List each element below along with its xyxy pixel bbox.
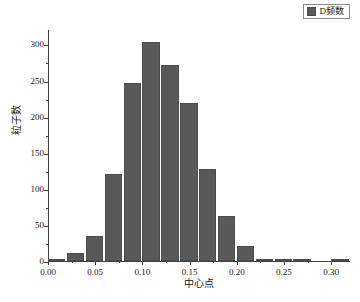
x-axis-tick-label: 0.05	[87, 267, 103, 277]
x-axis-tick	[48, 261, 49, 265]
y-axis-tick-label: 50	[4, 221, 44, 230]
y-axis-tick	[44, 226, 48, 227]
y-axis-tick	[44, 118, 48, 119]
x-axis-line	[48, 261, 350, 262]
y-axis-tick	[44, 82, 48, 83]
bar-series-d-frequency	[48, 30, 350, 261]
x-axis-minor-tick	[166, 261, 167, 263]
y-axis-title: 粒子数	[11, 105, 23, 135]
x-axis-minor-tick	[213, 261, 214, 263]
bar	[331, 259, 348, 261]
y-axis-tick-label: 250	[4, 77, 44, 86]
y-axis-tick	[44, 45, 48, 46]
y-axis-tick-label: 100	[4, 185, 44, 194]
chart-legend: D频数	[303, 4, 351, 19]
bar	[218, 216, 235, 261]
bar	[67, 253, 84, 261]
x-axis-tick	[142, 261, 143, 265]
x-axis-tick	[237, 261, 238, 265]
y-axis-tick-label: 200	[4, 113, 44, 122]
y-axis-tick	[44, 190, 48, 191]
y-axis-tick	[44, 154, 48, 155]
x-axis-tick	[95, 261, 96, 265]
y-axis-tick-label: 150	[4, 149, 44, 158]
plot-area: 050100150200250300 0.000.050.100.150.200…	[48, 30, 350, 262]
legend-swatch-d-frequency	[307, 7, 316, 16]
y-axis-minor-tick	[46, 172, 48, 173]
y-axis-minor-tick	[46, 244, 48, 245]
x-axis-tick-label: 0.20	[229, 267, 245, 277]
y-axis-minor-tick	[46, 63, 48, 64]
x-axis-tick-label: 0.25	[276, 267, 292, 277]
bar	[237, 246, 254, 261]
legend-label-d-frequency: D频数	[320, 6, 345, 17]
x-axis-tick-label: 0.30	[323, 267, 339, 277]
y-axis-minor-tick	[46, 136, 48, 137]
bar	[161, 65, 178, 261]
bar	[86, 236, 103, 261]
x-axis-tick-label: 0.15	[182, 267, 198, 277]
x-axis-minor-tick	[260, 261, 261, 263]
y-axis-tick-label: 300	[4, 40, 44, 49]
x-axis-title: 中心点	[48, 278, 350, 290]
x-axis-minor-tick	[119, 261, 120, 263]
x-axis-tick-label: 0.10	[135, 267, 151, 277]
x-axis-tick	[190, 261, 191, 265]
x-axis-tick	[331, 261, 332, 265]
bar	[199, 169, 216, 261]
x-axis-tick	[284, 261, 285, 265]
y-axis-tick-label: 0	[4, 257, 44, 266]
x-axis-tick-label: 0.00	[40, 267, 56, 277]
x-axis-minor-tick	[72, 261, 73, 263]
histogram-chart: D频数 050100150200250300 0.000.050.100.150…	[0, 0, 360, 302]
bar	[124, 83, 141, 261]
bar	[142, 42, 159, 261]
y-axis-minor-tick	[46, 100, 48, 101]
bar	[48, 259, 65, 261]
bar	[105, 174, 122, 261]
y-axis-minor-tick	[46, 208, 48, 209]
bar	[180, 103, 197, 261]
bar	[256, 259, 273, 261]
x-axis-minor-tick	[308, 261, 309, 263]
